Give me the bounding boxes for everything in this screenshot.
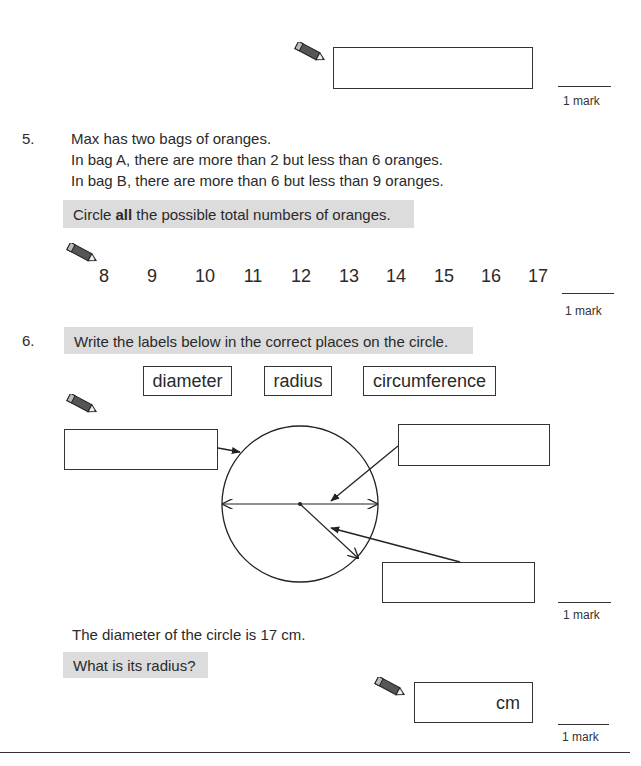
pointer-arrow-circumference [218, 448, 240, 452]
pointer-arrow-diameter [331, 446, 398, 501]
statement-text: The diameter of the circle is 17 cm. [72, 626, 305, 644]
answer-box-left[interactable] [64, 429, 218, 470]
instruction-text: What is its radius? [73, 657, 196, 674]
instruction-band: What is its radius? [63, 652, 208, 678]
page-bottom-rule [0, 752, 630, 753]
pointer-arrow-radius [331, 528, 460, 562]
unit-label: cm [496, 692, 520, 713]
center-dot [298, 502, 302, 506]
mark-line [558, 602, 611, 603]
radius-line [300, 504, 358, 558]
mark-line [558, 724, 609, 725]
answer-box-bottom-right[interactable] [382, 562, 535, 603]
mark-label: 1 mark [562, 730, 599, 744]
radius-answer-box[interactable]: cm [414, 682, 533, 723]
answer-box-top-right[interactable] [398, 424, 550, 466]
pencil-icon [372, 677, 408, 697]
mark-label: 1 mark [563, 608, 600, 622]
